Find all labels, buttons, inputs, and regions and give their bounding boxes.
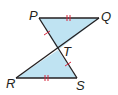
label-P: P xyxy=(29,8,38,23)
label-Q: Q xyxy=(101,9,111,24)
label-R: R xyxy=(6,76,15,91)
label-T: T xyxy=(63,44,72,59)
diagram-canvas: P Q T R S xyxy=(0,0,118,95)
label-S: S xyxy=(76,78,85,93)
